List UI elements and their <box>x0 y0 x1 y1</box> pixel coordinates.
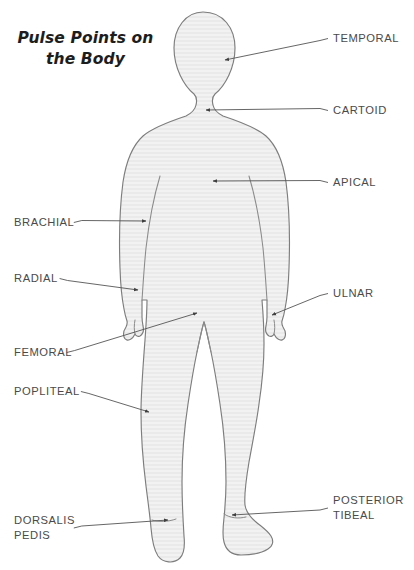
leader-line-cartoid <box>206 109 328 111</box>
label-dorsalis-pedis: DORSALIS PEDIS <box>14 513 75 543</box>
pulse-points-diagram: Pulse Points on the Body TEMPORALCARTOID… <box>0 0 414 570</box>
leader-line-popliteal <box>81 392 149 413</box>
label-ulnar: ULNAR <box>333 286 374 301</box>
body-outline-path <box>120 12 290 562</box>
label-femoral: FEMORAL <box>14 345 72 360</box>
page-title: Pulse Points on the Body <box>8 28 163 70</box>
label-temporal: TEMPORAL <box>333 31 399 46</box>
label-radial: RADIAL <box>14 271 58 286</box>
label-popliteal: POPLITEAL <box>14 384 80 399</box>
label-cartoid: CARTOID <box>333 103 387 118</box>
leader-line-temporal <box>225 39 328 61</box>
body-diagram-svg <box>0 0 414 570</box>
body-silhouette <box>120 12 290 562</box>
label-apical: APICAL <box>333 175 376 190</box>
label-brachial: BRACHIAL <box>14 215 74 230</box>
label-posterior-tibeal: POSTERIOR TIBEAL <box>333 493 404 523</box>
